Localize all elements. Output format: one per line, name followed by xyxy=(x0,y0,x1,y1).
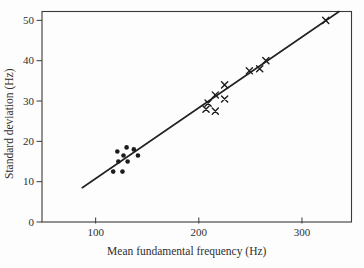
data-point-dot xyxy=(115,149,120,154)
data-point-dot xyxy=(132,147,137,152)
data-point-cross xyxy=(203,106,209,112)
data-point-dot xyxy=(136,153,141,158)
data-point-cross xyxy=(222,96,228,102)
data-point-dot xyxy=(125,159,130,164)
y-axis-title: Standard deviation (Hz) xyxy=(3,68,16,179)
data-point-dot xyxy=(120,169,125,174)
data-point-dot xyxy=(111,169,116,174)
x-tick-label: 300 xyxy=(294,226,311,238)
data-point-dot xyxy=(116,159,121,164)
scatter-plot: 01020304050100200300Mean fundamental fre… xyxy=(0,0,364,268)
data-point-cross xyxy=(212,108,218,114)
scatter-figure: 01020304050100200300Mean fundamental fre… xyxy=(0,0,364,268)
x-axis-title: Mean fundamental frequency (Hz) xyxy=(107,245,266,258)
y-tick-label: 30 xyxy=(23,95,35,107)
data-point-cross xyxy=(323,17,329,23)
data-point-dot xyxy=(121,153,126,158)
data-point-cross xyxy=(222,82,228,88)
y-tick-label: 40 xyxy=(23,54,35,66)
x-tick-label: 200 xyxy=(191,226,208,238)
data-point-dot xyxy=(124,145,129,150)
x-tick-label: 100 xyxy=(87,226,104,238)
y-tick-label: 50 xyxy=(23,14,35,26)
y-tick-label: 0 xyxy=(29,216,35,228)
y-tick-label: 10 xyxy=(23,175,35,187)
plot-frame xyxy=(42,12,352,223)
y-tick-label: 20 xyxy=(23,135,35,147)
